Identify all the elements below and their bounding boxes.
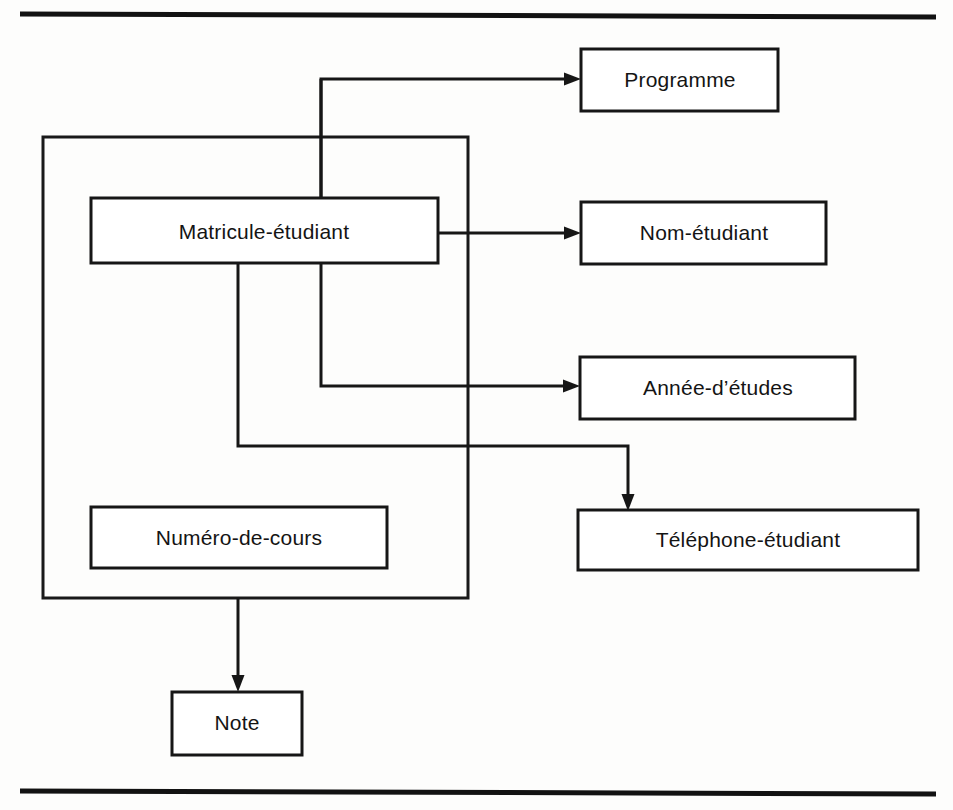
node-telephone-etudiant[interactable]: Téléphone-étudiant [578, 510, 918, 570]
node-matricule-etudiant-label: Matricule-étudiant [179, 220, 350, 243]
node-telephone-etudiant-label: Téléphone-étudiant [656, 528, 841, 551]
top-horizontal-rule [20, 14, 936, 17]
node-nom-etudiant[interactable]: Nom-étudiant [581, 202, 826, 264]
arrowhead-nom [564, 227, 581, 240]
node-nom-etudiant-label: Nom-étudiant [640, 221, 768, 244]
node-numero-de-cours[interactable]: Numéro-de-cours [91, 507, 387, 568]
node-annee-d-etudes-label: Année-d’études [643, 376, 793, 399]
arrowhead-telephone [622, 494, 635, 511]
node-numero-de-cours-label: Numéro-de-cours [156, 526, 322, 549]
node-programme-label: Programme [624, 68, 736, 91]
arrowhead-note [232, 675, 245, 692]
diagram-canvas: Matricule-étudiant Numéro-de-cours Progr… [0, 0, 953, 810]
node-programme[interactable]: Programme [581, 49, 778, 111]
node-annee-d-etudes[interactable]: Année-d’études [580, 357, 855, 419]
node-note-label: Note [214, 711, 259, 734]
arrowhead-annee [563, 380, 580, 393]
figure-page: Matricule-étudiant Numéro-de-cours Progr… [0, 0, 953, 810]
node-note[interactable]: Note [172, 692, 302, 755]
node-matricule-etudiant[interactable]: Matricule-étudiant [91, 198, 438, 263]
arrowhead-programme [564, 73, 581, 86]
bottom-horizontal-rule [20, 791, 936, 794]
